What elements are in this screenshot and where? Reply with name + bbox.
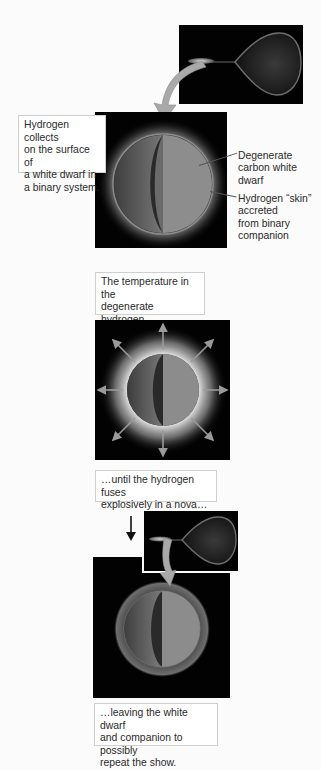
label-line: carbon white [238,162,297,174]
label-hydrogen-skin: Hydrogen “skin” accreted from binary com… [238,193,311,243]
caption-line: and companion to possibly [100,732,212,757]
label-line: from binary [238,218,311,230]
label-line: companion [238,230,311,242]
curved-arrow-icon [148,538,188,588]
caption-line: a binary system. [24,182,100,195]
nova-panel [95,320,230,460]
caption-line: The temperature in the [101,276,199,301]
label-white-dwarf: Degenerate carbon white dwarf [238,150,297,187]
label-line: accreted [238,205,311,217]
caption-line: …until the hydrogen fuses [101,474,211,499]
caption-line: Hydrogen collects [24,119,100,144]
caption-line: explosively in a nova… [101,499,211,512]
label-line: Degenerate [238,150,297,162]
nova-illustration [95,320,230,460]
white-dwarf-illustration [95,112,227,248]
caption-line: a white dwarf in [24,169,100,182]
caption-line: …leaving the white dwarf [100,707,212,732]
white-dwarf-panel [95,112,227,248]
caption-line: on the surface of [24,144,100,169]
label-line: Hydrogen “skin” [238,193,311,205]
caption-line: repeat the show. [100,757,212,770]
caption-nova: …until the hydrogen fuses explosively in… [95,470,217,502]
caption-heating: The temperature in the degenerate hydrog… [95,272,205,315]
caption-accretion: Hydrogen collects on the surface of a wh… [18,115,106,173]
down-arrow-icon [126,516,136,542]
caption-repeat: …leaving the white dwarf and companion t… [94,703,218,746]
label-line: dwarf [238,175,297,187]
